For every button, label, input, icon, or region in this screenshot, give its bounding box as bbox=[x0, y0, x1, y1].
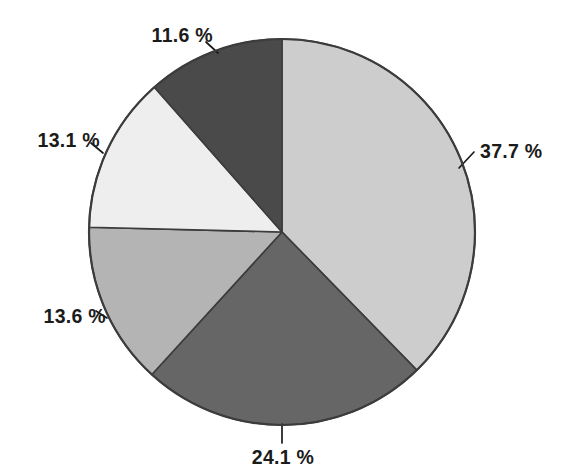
pie-slices-group bbox=[89, 39, 475, 425]
slice-percentage-label: 13.1 % bbox=[37, 131, 100, 151]
slice-percentage-label: 24.1 % bbox=[223, 448, 343, 468]
slice-percentage-label: 13.6 % bbox=[43, 307, 106, 327]
slice-percentage-label: 11.6 % bbox=[152, 26, 213, 46]
pie-chart-figure: 37.7 %24.1 %13.6 %13.1 %11.6 % bbox=[0, 0, 561, 476]
pie-chart-canvas bbox=[0, 0, 561, 476]
slice-percentage-label: 37.7 % bbox=[480, 142, 543, 162]
